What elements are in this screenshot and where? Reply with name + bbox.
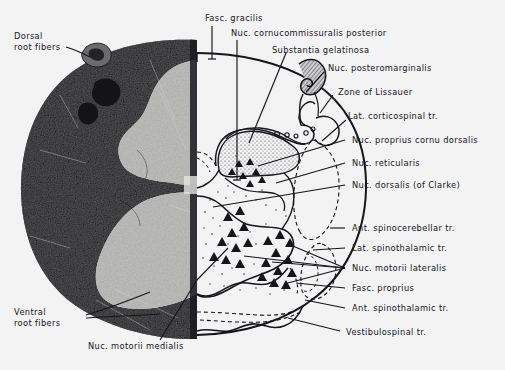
- label-zone-of-lissauer: Zone of Lissauer: [338, 87, 412, 97]
- label-lat-corticospinal-tr: Lat. corticospinal tr.: [348, 111, 438, 121]
- label-fasc-gracilis: Fasc. gracilis: [205, 13, 263, 23]
- label-vestibulospinal-tr: Vestibulospinal tr.: [346, 327, 426, 337]
- label-nuc-proprius-cornu-dorsalis: Nuc. proprius cornu dorsalis: [352, 135, 478, 145]
- spinal-cord-figure: Dorsal root fibers Fasc. gracilis Nuc. c…: [0, 0, 505, 370]
- label-nuc-motorii-medialis: Nuc. motorii medialis: [88, 341, 184, 351]
- label-ant-spinocerebellar-tr: Ant. spinocerebellar tr.: [352, 223, 455, 233]
- label-fasc-proprius: Fasc. proprius: [352, 283, 414, 293]
- label-lat-spinothalamic-tr: Lat. spinothalamic tr.: [352, 243, 447, 253]
- label-nuc-reticularis: Nuc. reticularis: [352, 158, 420, 168]
- label-nuc-dorsalis-of-clarke: Nuc. dorsalis (of Clarke): [352, 180, 460, 190]
- label-dorsal-root-fibers: Dorsal root fibers: [14, 31, 60, 52]
- label-ventral-root-fibers: Ventral root fibers: [14, 307, 60, 328]
- label-nuc-posteromarginalis: Nuc. posteromarginalis: [328, 63, 432, 73]
- label-ant-spinothalamic-tr: Ant. spinothalamic tr.: [352, 303, 449, 313]
- label-nuc-motorii-lateralis: Nuc. motorii lateralis: [352, 263, 446, 273]
- label-nuc-cornucommissuralis: Nuc. cornucommissuralis posterior: [231, 28, 387, 38]
- label-substantia-gelatinosa: Substantia gelatinosa: [272, 45, 369, 55]
